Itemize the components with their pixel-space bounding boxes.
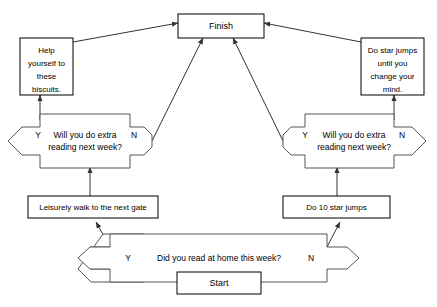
- node-finish-label: Finish: [209, 21, 233, 31]
- flowchart-diagram: Did you read at home this week? Y N Will…: [0, 0, 437, 307]
- node-finish[interactable]: Finish: [178, 14, 264, 38]
- decision-extra-reading-left[interactable]: Will you do extra reading next week? Y N: [8, 114, 152, 168]
- node-ten-star-jumps-label: Do 10 star jumps: [306, 203, 366, 212]
- decision-extra-reading-left-no-label: N: [131, 130, 137, 140]
- flowchart-canvas: Did you read at home this week? Y N Will…: [0, 0, 437, 307]
- connector-star-jumps-forever-to-finish: [264, 23, 361, 42]
- decision-extra-reading-right-yes-label: Y: [302, 130, 308, 140]
- node-star-jumps-forever-line2: until you: [378, 59, 408, 68]
- decision-extra-reading-right-no-label: N: [399, 130, 405, 140]
- connector-biscuits-to-finish: [73, 23, 178, 42]
- decision-read-at-home-yes-label: Y: [125, 253, 131, 263]
- decision-read-at-home-no-label: N: [308, 253, 314, 263]
- node-star-jumps-forever-line4: mind.: [383, 85, 403, 94]
- node-leisurely-walk[interactable]: Leisurely walk to the next gate: [28, 196, 158, 218]
- node-start[interactable]: Start: [177, 272, 261, 294]
- decision-extra-reading-right-line1: Will you do extra: [323, 130, 386, 140]
- node-biscuits-line2: yourself to: [28, 59, 65, 68]
- node-biscuits-line1: Help: [38, 46, 55, 55]
- node-biscuits-line3: these: [37, 72, 57, 81]
- node-ten-star-jumps[interactable]: Do 10 star jumps: [283, 196, 390, 218]
- decision-extra-reading-left-line1: Will you do extra: [54, 130, 117, 140]
- node-leisurely-walk-label: Leisurely walk to the next gate: [39, 203, 147, 212]
- node-star-jumps-forever-line3: change your: [370, 72, 414, 81]
- node-biscuits-line4: biscuits.: [32, 85, 61, 94]
- connector-right-yes-to-finish: [233, 38, 283, 141]
- decision-extra-reading-right-shape: [283, 114, 426, 168]
- node-start-label: Start: [209, 278, 229, 288]
- connector-read-no-to-ten-star-jumps: [327, 222, 340, 247]
- node-star-jumps-forever-line1: Do star jumps: [368, 46, 417, 55]
- connector-left-no-to-finish: [152, 38, 203, 141]
- decision-extra-reading-right[interactable]: Will you do extra reading next week? Y N: [283, 114, 426, 168]
- decision-extra-reading-right-line2: reading next week?: [317, 142, 391, 152]
- decision-extra-reading-left-line2: reading next week?: [48, 142, 122, 152]
- node-star-jumps-forever[interactable]: Do star jumps until you change your mind…: [361, 38, 424, 95]
- decision-extra-reading-left-yes-label: Y: [35, 130, 41, 140]
- decision-read-at-home-text: Did you read at home this week?: [157, 253, 281, 263]
- decision-extra-reading-left-shape: [8, 114, 152, 168]
- node-biscuits[interactable]: Help yourself to these biscuits.: [20, 38, 73, 95]
